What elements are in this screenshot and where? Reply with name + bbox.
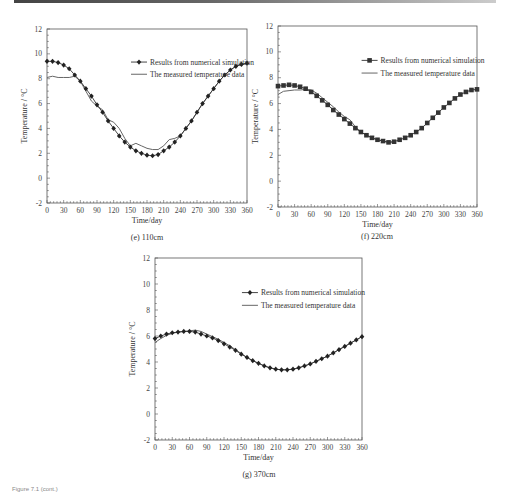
chart-svg: -202468101203060901201501802102402703003… [0, 0, 505, 499]
simulation-marker [256, 361, 261, 366]
caption-f: (f) 220cm [347, 232, 407, 241]
simulation-marker [331, 350, 336, 355]
plot-frame [155, 258, 362, 440]
x-tick-label: 330 [339, 443, 351, 452]
y-tick-label: -2 [144, 436, 150, 445]
simulation-marker [314, 359, 319, 364]
x-tick-label: 360 [356, 443, 368, 452]
simulation-marker [204, 333, 209, 338]
simulation-marker [176, 330, 181, 335]
x-axis-label: Time/day [243, 453, 273, 462]
y-tick-label: 4 [146, 358, 150, 367]
simulation-marker [325, 354, 330, 359]
figure-footer: Figure 7.1 (cont.) [12, 486, 58, 492]
x-tick-label: 300 [322, 443, 334, 452]
x-tick-label: 60 [186, 443, 194, 452]
caption-g: (g) 370cm [229, 470, 289, 479]
simulation-marker [302, 363, 307, 368]
x-tick-label: 180 [253, 443, 265, 452]
simulation-marker [348, 341, 353, 346]
simulation-marker [262, 363, 267, 368]
legend-simulation-label: Results from numerical simulation [261, 288, 365, 297]
simulation-marker [268, 365, 273, 370]
simulation-marker [296, 365, 301, 370]
x-tick-label: 0 [153, 443, 157, 452]
y-tick-label: 6 [146, 332, 150, 341]
simulation-marker [360, 334, 365, 339]
y-tick-label: 2 [146, 384, 150, 393]
caption-e: (e) 110cm [117, 233, 177, 242]
legend-simulation-marker [248, 290, 253, 295]
y-tick-label: 8 [146, 306, 150, 315]
x-tick-label: 120 [218, 443, 230, 452]
simulation-marker [245, 355, 250, 360]
y-tick-label: 10 [143, 280, 151, 289]
x-tick-label: 30 [169, 443, 177, 452]
x-tick-label: 240 [287, 443, 299, 452]
legend-measured-label: The measured temperature data [261, 301, 356, 310]
y-tick-label: 12 [143, 254, 151, 263]
y-axis-label: Temperature / °C [128, 321, 137, 376]
x-tick-label: 210 [270, 443, 282, 452]
simulation-marker [187, 329, 192, 334]
simulation-marker [285, 367, 290, 372]
simulation-marker [354, 337, 359, 342]
simulation-marker [319, 356, 324, 361]
simulation-marker [250, 358, 255, 363]
simulation-marker [342, 344, 347, 349]
x-tick-label: 270 [305, 443, 317, 452]
y-tick-label: 0 [146, 410, 150, 419]
simulation-marker [337, 347, 342, 352]
simulation-marker [279, 367, 284, 372]
simulation-marker [308, 361, 313, 366]
simulation-marker [291, 367, 296, 372]
simulation-marker [153, 336, 158, 341]
x-tick-label: 90 [203, 443, 211, 452]
simulation-marker [170, 330, 175, 335]
simulation-marker [181, 329, 186, 334]
x-tick-label: 150 [236, 443, 248, 452]
chart-g-370cm: -202468101203060901201501802102402703003… [0, 0, 505, 499]
simulation-marker [273, 367, 278, 372]
